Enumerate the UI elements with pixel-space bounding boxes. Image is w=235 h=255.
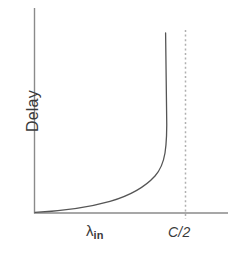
x-tick-label-lambda-in: λin (86, 222, 103, 241)
delay-vs-arrival-rate-figure: Delay λin C/2 (0, 0, 235, 255)
lambda-symbol: λ (86, 222, 94, 239)
x-tick-label-c-over-2: C/2 (168, 224, 190, 240)
lambda-subscript-in: in (94, 229, 104, 241)
y-axis-title: Delay (24, 90, 42, 132)
delay-curve (35, 33, 167, 212)
